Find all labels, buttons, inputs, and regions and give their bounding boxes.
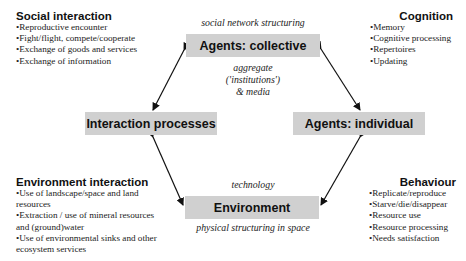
list-item: Resource use — [369, 210, 456, 221]
node-agents-collective: Agents: collective — [186, 34, 320, 57]
panel-list: Reproductive encounter Fight/flight, com… — [16, 22, 137, 67]
panel-social-interaction: Social interaction Reproductive encounte… — [16, 10, 137, 67]
list-item: Fight/flight, compete/cooperate — [16, 33, 137, 44]
list-item: Cognitive processing — [370, 33, 453, 44]
list-item: Exchange of information — [16, 56, 137, 67]
caption-physical-structuring: physical structuring in space — [160, 222, 346, 234]
list-item: Replicate/reproduce — [369, 188, 456, 199]
caption-line: & media — [200, 86, 306, 98]
node-environment: Environment — [185, 196, 319, 219]
list-item: Use of landscape/space and land — [16, 188, 157, 199]
list-item: Updating — [370, 56, 453, 67]
list-item: Exchange of goods and services — [16, 44, 137, 55]
panel-title: Environment interaction — [16, 176, 157, 188]
list-item: Reproductive encounter — [16, 22, 137, 33]
panel-behaviour: Behaviour Replicate/reproduce Starve/die… — [369, 176, 456, 244]
list-item: Memory — [370, 22, 453, 33]
list-item: Needs satisfaction — [369, 233, 456, 244]
list-item: Starve/die/disappear — [369, 199, 456, 210]
panel-list: Memory Cognitive processing Repertoires … — [370, 22, 453, 67]
caption-line: ('institutions') — [200, 74, 306, 86]
arrow-collective-interaction — [153, 50, 184, 110]
arrow-interaction-environment — [153, 137, 183, 205]
caption-line: aggregate — [200, 62, 306, 74]
list-item: Extraction / use of mineral resources — [16, 210, 157, 221]
list-item-continuation: resources — [16, 199, 157, 210]
list-item-continuation: ecosystem services — [16, 244, 157, 255]
caption-aggregate: aggregate ('institutions') & media — [200, 62, 306, 98]
panel-cognition: Cognition Memory Cognitive processing Re… — [370, 10, 453, 67]
arrow-collective-individual — [321, 49, 360, 110]
list-item: Use of environmental sinks and other — [16, 233, 157, 244]
list-item: Repertoires — [370, 44, 453, 55]
arrow-individual-environment — [321, 137, 360, 205]
caption-social-network: social network structuring — [160, 17, 346, 29]
panel-list: Replicate/reproduce Starve/die/disappear… — [369, 188, 456, 244]
panel-list: Use of landscape/space and land resource… — [16, 188, 157, 255]
panel-title: Cognition — [370, 10, 453, 22]
panel-title: Behaviour — [369, 176, 456, 188]
list-item: Resource processing — [369, 222, 456, 233]
list-item-continuation: and (ground)water — [16, 222, 157, 233]
node-interaction-processes: Interaction processes — [85, 112, 217, 135]
caption-technology: technology — [200, 179, 306, 191]
node-agents-individual: Agents: individual — [293, 112, 425, 135]
panel-title: Social interaction — [16, 10, 137, 22]
panel-environment-interaction: Environment interaction Use of landscape… — [16, 176, 157, 255]
